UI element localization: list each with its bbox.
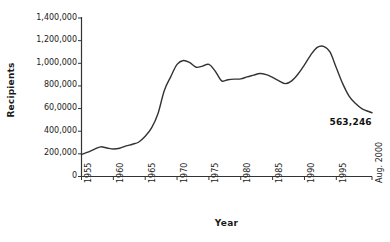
chart-axes — [78, 17, 372, 180]
x-axis-title: Year — [81, 218, 372, 228]
chart-figure: Recipients 0200,000400,00060,0000800,000… — [0, 0, 390, 242]
chart-series — [82, 46, 373, 154]
value-annotation: 563,246 — [329, 117, 371, 127]
series-line-0 — [82, 46, 373, 154]
